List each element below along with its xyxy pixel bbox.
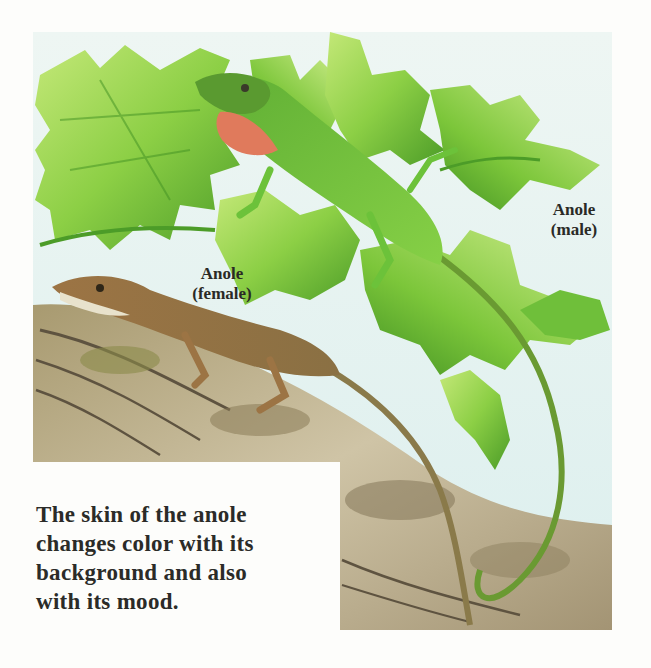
caption-line: background and also: [36, 558, 336, 587]
label-anole-female: Anole (female): [178, 264, 266, 304]
label-anole-male: Anole (male): [538, 200, 610, 240]
caption-line: with its mood.: [36, 587, 336, 616]
caption-line: changes color with its: [36, 529, 336, 558]
label-male-line-1: Anole: [538, 200, 610, 220]
label-male-line-2: (male): [538, 220, 610, 240]
book-page: Anole (male) Anole (female) The skin of …: [0, 0, 651, 668]
label-female-line-2: (female): [178, 284, 266, 304]
label-female-line-1: Anole: [178, 264, 266, 284]
caption-line: The skin of the anole: [36, 500, 336, 529]
caption-text: The skin of the anole changes color with…: [36, 500, 336, 616]
